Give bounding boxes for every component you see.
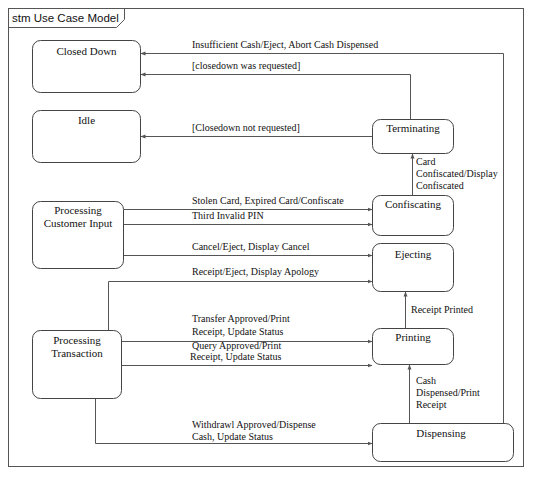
- state-idle-label: Idle: [78, 114, 95, 126]
- state-printing-label: Printing: [395, 331, 431, 343]
- label-cash-dispensed-3: Receipt: [416, 399, 447, 410]
- state-dispensing-label: Dispensing: [416, 427, 466, 439]
- label-withdrawl-approved-1: Withdrawl Approved/Dispense: [192, 419, 316, 430]
- label-stolen-card: Stolen Card, Expired Card/Confiscate: [192, 195, 344, 206]
- state-ejecting[interactable]: Ejecting: [373, 244, 454, 292]
- label-cancel-eject: Cancel/Eject, Display Cancel: [192, 241, 310, 252]
- edge-closedown-requested[interactable]: [141, 75, 411, 120]
- label-closedown-not-requested: [Closedown not requested]: [192, 122, 300, 133]
- label-card-confiscated-3: Confiscated: [416, 180, 464, 191]
- label-transfer-approved-1: Transfer Approved/Print: [192, 313, 290, 324]
- state-processing-transaction-label-2: Transaction: [51, 347, 103, 359]
- label-receipt-printed: Receipt Printed: [411, 304, 473, 315]
- label-withdrawl-approved-2: Cash, Update Status: [192, 431, 273, 442]
- state-printing[interactable]: Printing: [373, 329, 454, 365]
- label-transfer-approved-2: Receipt, Update Status: [192, 326, 283, 337]
- label-closedown-requested: [closedown was requested]: [192, 60, 300, 71]
- frame-title: stm Use Case Model: [12, 12, 119, 24]
- state-terminating[interactable]: Terminating: [373, 120, 454, 154]
- state-processing-transaction[interactable]: Processing Transaction: [33, 331, 122, 399]
- label-receipt-eject: Receipt/Eject, Display Apology: [192, 266, 319, 277]
- state-closed-down[interactable]: Closed Down: [33, 41, 141, 93]
- label-query-approved-2: Receipt, Update Status: [190, 351, 281, 362]
- state-confiscating[interactable]: Confiscating: [373, 196, 454, 236]
- label-third-invalid-pin: Third Invalid PIN: [192, 210, 264, 221]
- state-machine-diagram: stm Use Case Model Insufficient Cash/Eje…: [0, 0, 535, 483]
- state-dispensing[interactable]: Dispensing: [373, 424, 514, 462]
- label-insufficient-cash: Insufficient Cash/Eject, Abort Cash Disp…: [192, 39, 378, 50]
- label-cash-dispensed-2: Dispensed/Print: [416, 387, 480, 398]
- edge-insufficient-cash[interactable]: [141, 54, 504, 424]
- state-ejecting-label: Ejecting: [395, 248, 432, 260]
- state-processing-customer-input-label-2: Customer Input: [44, 217, 113, 229]
- state-confiscating-label: Confiscating: [385, 198, 442, 210]
- state-processing-customer-input-label-1: Processing: [54, 204, 102, 216]
- state-terminating-label: Terminating: [386, 122, 440, 134]
- state-processing-customer-input[interactable]: Processing Customer Input: [33, 202, 124, 269]
- state-closed-down-label: Closed Down: [56, 45, 117, 57]
- label-card-confiscated-1: Card: [416, 156, 435, 167]
- label-query-approved-1: Query Approved/Print: [192, 340, 281, 351]
- label-card-confiscated-2: Confiscated/Display: [416, 168, 498, 179]
- label-cash-dispensed-1: Cash: [416, 375, 436, 386]
- state-processing-transaction-label-1: Processing: [53, 334, 101, 346]
- state-idle[interactable]: Idle: [33, 111, 141, 163]
- transition-labels: Insufficient Cash/Eject, Abort Cash Disp…: [190, 39, 498, 442]
